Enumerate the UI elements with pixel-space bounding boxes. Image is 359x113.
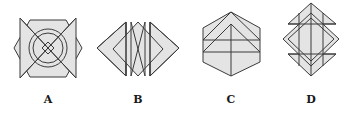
figure-a[interactable] [14, 18, 82, 78]
figure-options: A B C D [0, 0, 359, 113]
label-d: D [301, 93, 321, 106]
label-c: C [221, 93, 241, 106]
label-a: A [38, 93, 58, 106]
figure-d[interactable] [283, 3, 339, 76]
label-b: B [128, 93, 148, 106]
figure-b[interactable] [97, 22, 179, 76]
figure-c[interactable] [203, 12, 260, 76]
